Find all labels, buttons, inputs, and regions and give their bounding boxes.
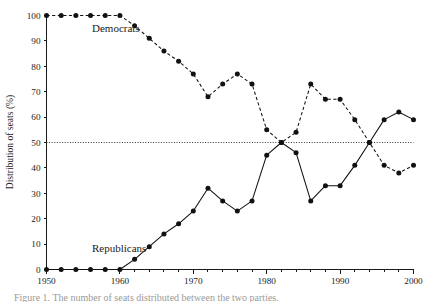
democrats-label: Democrats: [92, 22, 140, 34]
data-point-democrats: [161, 49, 166, 54]
data-point-democrats: [88, 13, 93, 18]
x-tick-label: 1980: [258, 276, 277, 286]
data-point-democrats: [235, 71, 240, 76]
data-point-republicans: [338, 183, 343, 188]
data-point-republicans: [411, 117, 416, 122]
data-point-republicans: [382, 117, 387, 122]
data-point-democrats: [382, 163, 387, 168]
data-point-democrats: [103, 13, 108, 18]
data-point-republicans: [161, 231, 166, 236]
series-line-democrats: [47, 16, 414, 173]
data-point-republicans: [147, 244, 152, 249]
data-point-republicans: [176, 221, 181, 226]
data-point-democrats: [352, 117, 357, 122]
data-point-republicans: [73, 267, 78, 272]
data-point-democrats: [411, 163, 416, 168]
y-axis-title: Distribution of seats (%): [4, 95, 16, 190]
data-point-republicans: [264, 153, 269, 158]
data-point-republicans: [220, 198, 225, 203]
x-axis-tick-labels: 195019601970198019902000: [37, 276, 423, 286]
data-point-republicans: [308, 198, 313, 203]
y-tick-label: 80: [31, 62, 41, 72]
y-axis-group: 0102030405060708090100 Distribution of s…: [4, 11, 47, 275]
data-point-democrats: [117, 13, 122, 18]
x-tick-label: 1950: [37, 276, 56, 286]
line-chart: 0102030405060708090100 Distribution of s…: [0, 0, 427, 302]
x-tick-label: 2000: [404, 276, 423, 286]
data-point-republicans: [396, 110, 401, 115]
data-point-republicans: [250, 198, 255, 203]
data-point-democrats: [191, 71, 196, 76]
data-point-democrats: [323, 97, 328, 102]
data-point-republicans: [132, 257, 137, 262]
republicans-label: Republicans: [92, 242, 146, 254]
figure-container: 0102030405060708090100 Distribution of s…: [0, 0, 427, 302]
data-point-republicans: [323, 183, 328, 188]
data-point-republicans: [88, 267, 93, 272]
y-tick-label: 20: [31, 214, 41, 224]
y-tick-label: 70: [31, 87, 41, 97]
y-tick-label: 10: [31, 239, 41, 249]
data-point-republicans: [191, 209, 196, 214]
data-point-democrats: [250, 82, 255, 87]
y-tick-label: 90: [31, 36, 41, 46]
data-point-republicans: [235, 209, 240, 214]
y-tick-label: 100: [27, 11, 41, 21]
y-tick-label: 0: [36, 265, 41, 275]
data-point-democrats: [264, 127, 269, 132]
data-point-democrats: [338, 97, 343, 102]
data-point-democrats: [396, 170, 401, 175]
x-tick-label: 1990: [331, 276, 350, 286]
data-point-democrats: [220, 82, 225, 87]
data-point-democrats: [44, 13, 49, 18]
data-point-democrats: [294, 130, 299, 135]
y-axis-tick-labels: 0102030405060708090100: [27, 11, 41, 275]
data-point-republicans: [279, 140, 284, 145]
figure-caption-strip: Figure 1. The number of seats distribute…: [0, 293, 427, 302]
data-point-democrats: [205, 94, 210, 99]
x-axis-group: 195019601970198019902000: [37, 270, 423, 286]
x-axis-major-ticks: [47, 270, 414, 274]
data-point-republicans: [59, 267, 64, 272]
data-point-republicans: [367, 140, 372, 145]
series-markers-group: [44, 13, 416, 272]
data-point-republicans: [44, 267, 49, 272]
y-tick-label: 50: [31, 138, 41, 148]
data-point-democrats: [59, 13, 64, 18]
y-tick-label: 40: [31, 163, 41, 173]
data-point-republicans: [117, 267, 122, 272]
data-point-republicans: [103, 267, 108, 272]
data-point-democrats: [176, 59, 181, 64]
y-tick-label: 60: [31, 112, 41, 122]
data-point-republicans: [294, 150, 299, 155]
series-annotations: DemocratsRepublicans: [92, 22, 146, 254]
data-point-democrats: [147, 36, 152, 41]
data-point-republicans: [352, 163, 357, 168]
y-tick-label: 30: [31, 189, 41, 199]
data-point-democrats: [73, 13, 78, 18]
x-tick-label: 1970: [184, 276, 203, 286]
x-tick-label: 1960: [111, 276, 130, 286]
data-point-republicans: [205, 186, 210, 191]
data-point-democrats: [308, 82, 313, 87]
figure-caption: Figure 1. The number of seats distribute…: [0, 293, 427, 302]
